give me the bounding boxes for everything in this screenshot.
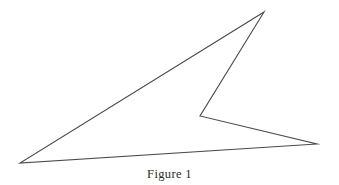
figure-caption: Figure 1 <box>0 166 339 182</box>
figure-background <box>0 0 339 185</box>
polygon-figure <box>0 0 339 185</box>
figure-page: Figure 1 <box>0 0 339 185</box>
